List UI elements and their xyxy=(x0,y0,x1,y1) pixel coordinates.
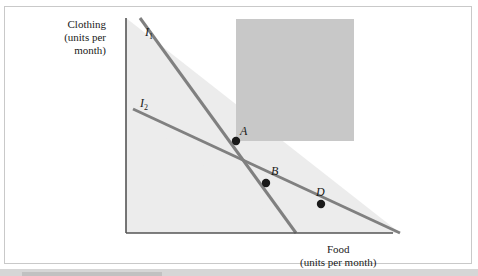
point-label-b: B xyxy=(271,164,278,179)
curve-label-i2-sub: 2 xyxy=(144,103,148,112)
y-axis-label-line2: (units per xyxy=(64,31,106,44)
point-label-d: D xyxy=(316,185,325,200)
y-axis-label: Clothing (units per month) xyxy=(64,18,106,57)
page-bottom-band-text-sliver xyxy=(22,272,162,276)
figure-container: Clothing (units per month) Food (units p… xyxy=(0,0,478,276)
y-axis-label-line3: month) xyxy=(64,44,106,57)
x-axis-label-line1: Food xyxy=(300,243,376,256)
gray-rectangle-block xyxy=(236,19,354,141)
curve-label-i1-sub: 1 xyxy=(149,32,153,41)
point-label-a: A xyxy=(240,124,247,139)
x-axis-label-line2: (units per month) xyxy=(300,256,376,269)
data-point-b xyxy=(262,179,270,187)
y-axis-label-line1: Clothing xyxy=(64,18,106,31)
x-axis-label: Food (units per month) xyxy=(300,243,376,269)
data-point-a xyxy=(232,137,240,145)
curve-label-i2: I2 xyxy=(140,96,148,112)
data-point-d xyxy=(317,200,325,208)
curve-label-i1: I1 xyxy=(145,25,153,41)
